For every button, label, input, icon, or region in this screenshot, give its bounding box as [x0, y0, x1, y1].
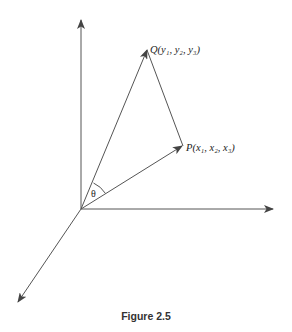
point-p-label: P(x₁, x₂, x₃) [185, 142, 235, 154]
figure-caption: Figure 2.5 [0, 310, 292, 322]
vector-diagram: Q(y₁, y₂, y₃) P(x₁, x₂, x₃) θ [0, 0, 292, 332]
vector-op [81, 146, 182, 209]
diagonal-axis [18, 209, 81, 302]
segment-pq [147, 50, 183, 146]
point-q-label: Q(y₁, y₂, y₃) [150, 44, 201, 56]
vector-oq [81, 50, 147, 209]
theta-label: θ [91, 188, 96, 199]
